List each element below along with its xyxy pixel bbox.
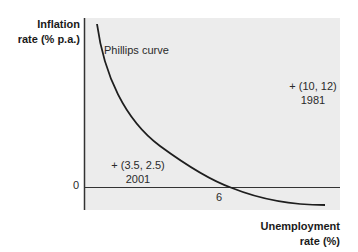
y-zero-tick-label: 0 xyxy=(73,179,79,191)
y-axis-title-line2: rate (% p.a.) xyxy=(10,32,80,47)
phillips-curve-label: Phillips curve xyxy=(104,44,169,56)
x-tick-label-6: 6 xyxy=(216,191,222,203)
annotation-1981: + (10, 12) 1981 xyxy=(288,79,338,107)
plus-marker-icon: + xyxy=(111,159,117,171)
annotation-coords: (3.5, 2.5) xyxy=(121,159,165,171)
plus-marker-icon: + xyxy=(289,80,295,92)
x-axis-title-line1: Unemployment xyxy=(250,219,340,234)
annotation-year: 2001 xyxy=(110,172,166,186)
annotation-year: 1981 xyxy=(288,93,338,107)
x-axis-title: Unemployment rate (%) xyxy=(250,219,340,249)
x-axis-title-line2: rate (%) xyxy=(250,234,340,249)
annotation-2001: + (3.5, 2.5) 2001 xyxy=(110,158,166,186)
y-axis-title: Inflation rate (% p.a.) xyxy=(10,17,80,47)
y-axis-title-line1: Inflation xyxy=(10,17,80,32)
annotation-coords: (10, 12) xyxy=(299,80,337,92)
